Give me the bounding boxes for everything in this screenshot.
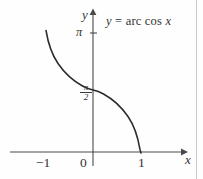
x-tick-label-one: 1: [138, 156, 145, 170]
arccos-graph-figure: y x y = arc cos x π π2 −1 0 1: [0, 0, 203, 179]
x-axis-label: x: [185, 153, 191, 166]
equation-variable: x: [162, 14, 171, 28]
fraction-denominator: 2: [80, 93, 92, 102]
y-tick-label-pi-half: π2: [80, 83, 92, 103]
x-tick-label-zero: 0: [80, 156, 87, 170]
page-border-line: [196, 0, 197, 179]
equation-function: arc cos: [126, 14, 162, 28]
plot-canvas: [0, 0, 203, 179]
equation-equals: =: [112, 14, 126, 28]
x-tick-label-negative-one: −1: [36, 156, 50, 170]
y-tick-label-pi: π: [76, 26, 82, 39]
equation-annotation: y = arc cos x: [106, 15, 171, 28]
y-axis-label: y: [82, 8, 88, 21]
